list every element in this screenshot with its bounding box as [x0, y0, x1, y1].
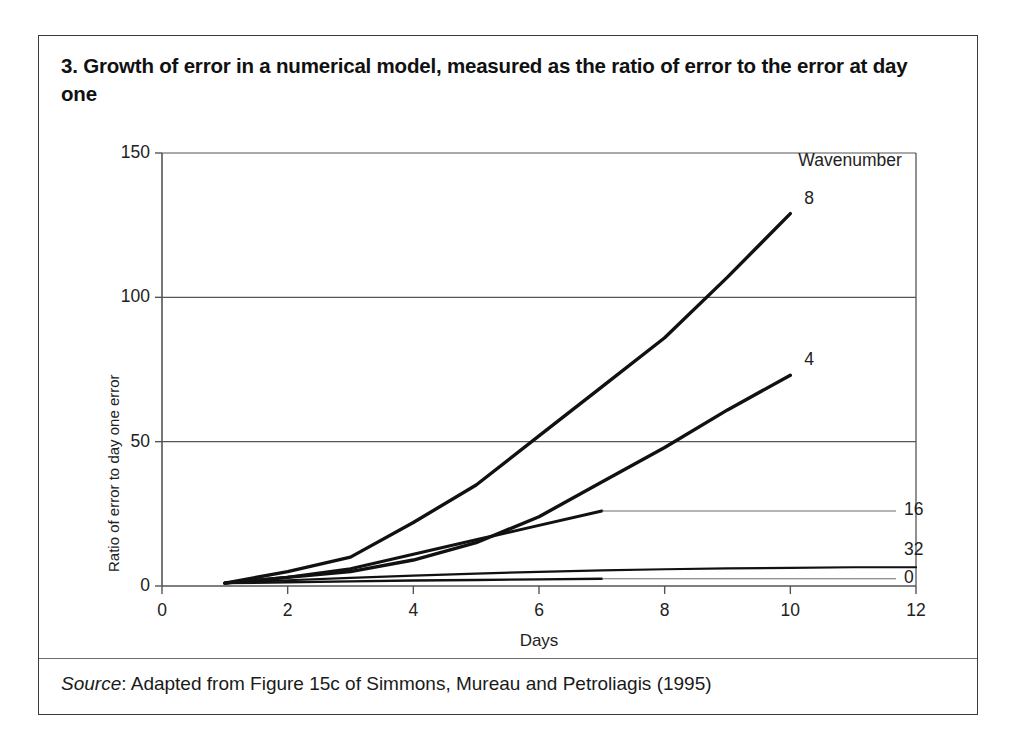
x-tick-label: 12 — [896, 600, 936, 621]
source-text: : Adapted from Figure 15c of Simmons, Mu… — [121, 673, 711, 694]
x-tick-label: 2 — [268, 600, 308, 621]
series-label-4: 4 — [804, 349, 814, 370]
series-line-8 — [225, 214, 791, 583]
x-axis-label: Days — [162, 631, 916, 651]
series-label-8: 8 — [804, 188, 814, 209]
source-divider: Source: Adapted from Figure 15c of Simmo… — [39, 658, 977, 714]
x-tick-label: 4 — [393, 600, 433, 621]
series-label-0: 0 — [904, 567, 914, 588]
source-note: Source: Adapted from Figure 15c of Simmo… — [61, 673, 712, 695]
y-tick-label: 50 — [131, 431, 150, 452]
source-prefix: Source — [61, 673, 121, 694]
series-label-32: 32 — [904, 539, 923, 560]
x-tick-label: 0 — [142, 600, 182, 621]
legend-title: Wavenumber — [798, 150, 901, 171]
series-line-4 — [225, 375, 791, 583]
y-tick-label: 0 — [140, 575, 150, 596]
x-tick-label: 8 — [645, 600, 685, 621]
chart-plot-area: Ratio of error to day one error Days Wav… — [39, 36, 979, 660]
y-tick-label: 150 — [121, 142, 150, 163]
figure-frame: 3. Growth of error in a numerical model,… — [38, 35, 978, 715]
series-label-16: 16 — [904, 499, 923, 520]
chart-svg — [39, 36, 979, 660]
y-axis-label: Ratio of error to day one error — [105, 374, 122, 572]
x-tick-label: 6 — [519, 600, 559, 621]
x-tick-label: 10 — [770, 600, 810, 621]
y-tick-label: 100 — [121, 286, 150, 307]
